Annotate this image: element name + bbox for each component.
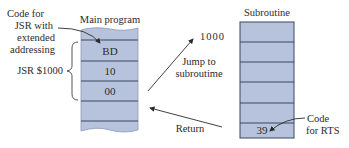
subroutine-fill	[240, 22, 294, 138]
main-cell-bd: BD	[102, 45, 117, 57]
code-for-jsr-line-2: JSR with	[15, 20, 54, 31]
return-label: Return	[176, 123, 205, 134]
main-program-block: Main program BD 10 00	[80, 14, 140, 132]
jsr-instruction-label: JSR $1000	[17, 65, 63, 76]
subroutine-cell-39: 39	[257, 124, 269, 136]
code-for-rts-line-1: Code	[307, 113, 330, 124]
curly-brace-icon	[67, 42, 78, 100]
jump-label-line-1: Jump to	[182, 56, 216, 67]
code-for-jsr-line-4: addressing	[10, 44, 56, 55]
main-program-title: Main program	[80, 14, 140, 25]
return-annotation: Return	[150, 108, 222, 134]
code-for-jsr-line-3: extended	[17, 32, 56, 43]
main-cell-00: 00	[105, 85, 117, 97]
main-cell-10: 10	[105, 65, 117, 77]
jsr-subroutine-diagram: Main program BD 10 00 Subroutine 39 Code…	[0, 0, 349, 148]
main-program-fill	[81, 28, 138, 132]
subroutine-title: Subroutine	[244, 7, 290, 18]
subroutine-block: Subroutine 39	[240, 7, 294, 138]
address-1000-label: 1000	[200, 31, 225, 42]
code-for-jsr-line-1: Code for	[7, 8, 45, 19]
jump-label-line-2: subroutime	[175, 68, 223, 79]
jump-to-subroutine-annotation: 1000 Jump to subroutime	[148, 31, 225, 91]
code-for-rts-line-2: for RTS	[306, 125, 340, 136]
